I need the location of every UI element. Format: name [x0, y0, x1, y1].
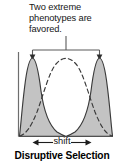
figure-title: Disruptive Selection [0, 150, 124, 161]
shift-axis-label: shift [0, 136, 124, 146]
disruptive-selection-figure: Two extreme phenotypes are favored. shif… [0, 0, 124, 165]
bimodal-distribution-area [20, 58, 113, 136]
